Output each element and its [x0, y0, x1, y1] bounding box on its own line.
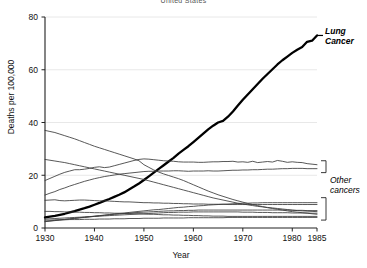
series-line-esophagus: [45, 217, 317, 220]
series-line-colon-and-rectum: [45, 159, 317, 181]
other-cancers-bracket-lower: [321, 198, 326, 220]
series-line-prostate: [45, 200, 317, 205]
plot-area: [0, 0, 367, 268]
cancer-mortality-chart: United States Deaths per 100,000 Year 80…: [0, 0, 367, 268]
other-cancers-bracket-upper: [321, 161, 326, 173]
series-line-breast: [45, 168, 317, 195]
series-line-stomach: [45, 130, 317, 214]
series-line-lung-cancer: [45, 35, 317, 217]
